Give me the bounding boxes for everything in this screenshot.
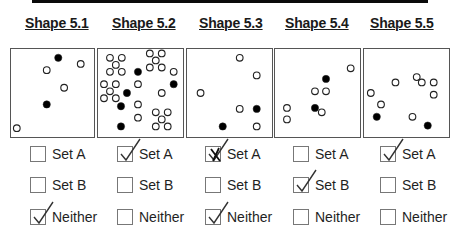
check-mark-icon <box>27 198 57 228</box>
open-point <box>112 62 119 69</box>
option-neither[interactable]: Neither <box>30 208 97 226</box>
option-set-b[interactable]: Set B <box>117 176 173 194</box>
check-mark-icon <box>377 135 407 165</box>
option-set-a[interactable]: Set A <box>205 145 260 163</box>
shape-panel <box>186 48 273 138</box>
option-label: Neither <box>402 209 447 225</box>
open-point <box>152 123 159 130</box>
open-point <box>284 116 291 123</box>
option-set-b[interactable]: Set B <box>380 176 436 194</box>
open-point <box>318 109 325 116</box>
filled-point <box>373 113 380 120</box>
open-point <box>418 79 425 86</box>
shape-plot <box>187 49 272 137</box>
shape-panel <box>363 48 450 138</box>
option-label: Neither <box>139 209 184 225</box>
checkbox[interactable] <box>380 177 396 193</box>
option-set-a[interactable]: Set A <box>117 145 172 163</box>
filled-point <box>134 68 141 75</box>
option-set-b[interactable]: Set B <box>293 176 349 194</box>
header-banner <box>32 0 428 3</box>
option-neither[interactable]: Neither <box>205 208 272 226</box>
open-point <box>135 114 142 121</box>
open-point <box>61 84 68 91</box>
checkbox[interactable] <box>117 146 133 162</box>
open-point <box>43 67 50 74</box>
open-point <box>253 72 260 79</box>
open-point <box>135 101 142 108</box>
checkbox[interactable] <box>293 209 309 225</box>
open-point <box>158 90 165 97</box>
filled-point <box>123 89 130 96</box>
shape-title: Shape 5.5 <box>370 15 434 31</box>
open-point <box>101 95 108 102</box>
checkbox[interactable] <box>380 209 396 225</box>
shape-title: Shape 5.1 <box>25 15 89 31</box>
crossed-out-check-icon <box>202 135 232 165</box>
filled-point <box>117 123 124 130</box>
option-set-a[interactable]: Set A <box>30 145 85 163</box>
open-point <box>164 123 171 130</box>
option-set-a[interactable]: Set A <box>293 145 348 163</box>
open-point <box>413 74 420 81</box>
checkbox[interactable] <box>117 209 133 225</box>
open-point <box>430 91 437 98</box>
option-set-a[interactable]: Set A <box>380 145 435 163</box>
checkbox[interactable] <box>293 146 309 162</box>
shape-plot <box>364 49 449 137</box>
shape-title: Shape 5.4 <box>285 15 349 31</box>
check-mark-icon <box>202 198 232 228</box>
option-label: Set B <box>315 177 349 193</box>
open-point <box>112 81 119 88</box>
filled-point <box>322 75 329 82</box>
option-set-b[interactable]: Set B <box>205 176 261 194</box>
open-point <box>107 69 114 76</box>
filled-point <box>43 101 50 108</box>
checkbox[interactable] <box>205 209 221 225</box>
filled-point <box>55 54 62 61</box>
filled-point <box>170 81 177 88</box>
checkbox[interactable] <box>30 146 46 162</box>
checkbox[interactable] <box>205 177 221 193</box>
open-point <box>158 50 165 57</box>
checkbox[interactable] <box>380 146 396 162</box>
open-point <box>107 88 114 95</box>
filled-point <box>311 104 318 111</box>
option-neither[interactable]: Neither <box>117 208 184 226</box>
open-point <box>118 69 125 76</box>
option-label: Set B <box>227 177 261 193</box>
option-set-b[interactable]: Set B <box>30 176 86 194</box>
shape-plot <box>275 49 360 137</box>
option-neither[interactable]: Neither <box>293 208 360 226</box>
option-label: Set A <box>227 146 260 162</box>
checkbox[interactable] <box>30 209 46 225</box>
open-point <box>13 125 20 132</box>
checkbox[interactable] <box>30 177 46 193</box>
filled-point <box>253 105 260 112</box>
option-label: Set B <box>402 177 436 193</box>
option-neither[interactable]: Neither <box>380 208 447 226</box>
option-label: Neither <box>227 209 272 225</box>
open-point <box>152 57 159 64</box>
checkbox[interactable] <box>205 146 221 162</box>
checkbox[interactable] <box>293 177 309 193</box>
open-point <box>378 101 385 108</box>
open-point <box>236 54 243 61</box>
open-point <box>158 64 165 71</box>
check-mark-icon <box>114 135 144 165</box>
option-label: Set A <box>52 146 85 162</box>
open-point <box>367 90 374 97</box>
checkbox[interactable] <box>117 177 133 193</box>
shape-title: Shape 5.3 <box>199 15 263 31</box>
open-point <box>77 61 84 68</box>
open-point <box>118 54 125 61</box>
open-point <box>158 116 165 123</box>
filled-point <box>219 123 226 130</box>
open-point <box>112 95 119 102</box>
open-point <box>135 81 142 88</box>
check-mark-icon <box>290 166 320 196</box>
open-point <box>323 88 330 95</box>
option-label: Set B <box>52 177 86 193</box>
open-point <box>107 54 114 61</box>
shape-plot <box>11 49 94 137</box>
